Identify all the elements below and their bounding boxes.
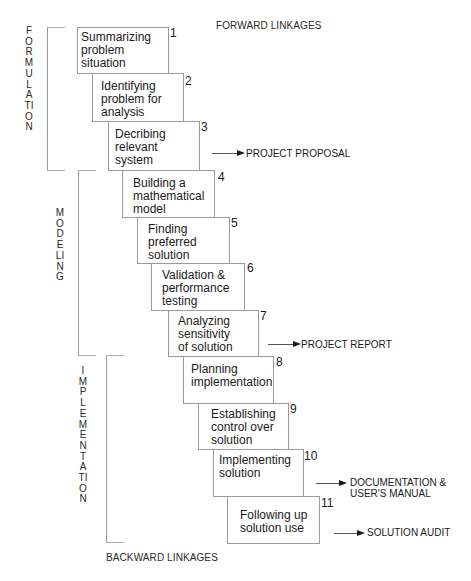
step-number: 6 [247, 262, 254, 274]
arrow-right-icon [357, 530, 365, 536]
step-text: Identifying problem for analysis [101, 80, 162, 119]
output-arrow-line [316, 483, 340, 484]
step-text: Analyzing sensitivity of solution [178, 315, 233, 354]
step-text: Following up solution use [240, 509, 307, 535]
step-number: 10 [304, 450, 317, 462]
step-text: Implementing solution [219, 454, 291, 480]
output-arrow-line [268, 344, 294, 345]
step-box-8: Planning implementation [183, 356, 274, 404]
step-box-6: Validation & performance testing [151, 263, 245, 311]
output-label-solution-audit: SOLUTION AUDIT [367, 527, 450, 538]
step-number: 9 [290, 403, 297, 415]
arrow-right-icon [339, 480, 347, 486]
step-box-5: Finding preferred solution [137, 217, 230, 264]
step-box-7: Analyzing sensitivity of solution [168, 310, 259, 357]
step-number: 1 [170, 27, 177, 39]
step-number: 3 [201, 121, 208, 133]
step-box-11: Following up solution use [227, 496, 320, 544]
step-box-3: Decribing relevant system [108, 121, 200, 171]
output-label-project-proposal: PROJECT PROPOSAL [246, 148, 350, 159]
step-number: 7 [260, 310, 267, 322]
step-number: 4 [218, 171, 225, 183]
step-number: 8 [276, 356, 283, 368]
output-label-project-report: PROJECT REPORT [301, 339, 392, 350]
phase-label-formulation: FORMULATION [24, 26, 34, 133]
step-text: Building a mathematical model [133, 177, 204, 216]
output-arrow-line [212, 153, 238, 154]
phase-label-implementation: IMPLEMENTATION [78, 366, 88, 505]
step-box-9: Establishing control over solution [198, 403, 289, 450]
step-box-4: Building a mathematical model [122, 170, 215, 218]
step-text: Summarizing problem situation [81, 31, 151, 70]
step-number: 5 [231, 217, 238, 229]
step-text: Decribing relevant system [115, 128, 166, 167]
step-text: Finding preferred solution [148, 223, 197, 262]
step-box-2: Identifying problem for analysis [92, 73, 184, 122]
step-box-1: Summarizing problem situation [77, 27, 169, 74]
forward-linkages-heading: FORWARD LINKAGES [216, 20, 322, 31]
arrow-right-icon [237, 150, 245, 156]
phase-bracket-modeling [78, 170, 96, 356]
arrow-right-icon [293, 341, 301, 347]
output-label-documentation: DOCUMENTATION & USER'S MANUAL [350, 477, 446, 499]
step-text: Establishing control over solution [211, 408, 276, 447]
output-arrow-line [334, 533, 359, 534]
step-number: 11 [321, 497, 333, 509]
backward-linkages-heading: BACKWARD LINKAGES [106, 552, 218, 563]
step-text: Validation & performance testing [162, 269, 229, 308]
step-text: Planning implementation [191, 363, 272, 389]
phase-bracket-formulation [47, 27, 65, 171]
phase-bracket-implementation [106, 355, 124, 543]
phase-label-modeling: MODELING [55, 208, 65, 283]
step-box-10: Implementing solution [213, 449, 304, 497]
step-number: 2 [185, 75, 192, 87]
